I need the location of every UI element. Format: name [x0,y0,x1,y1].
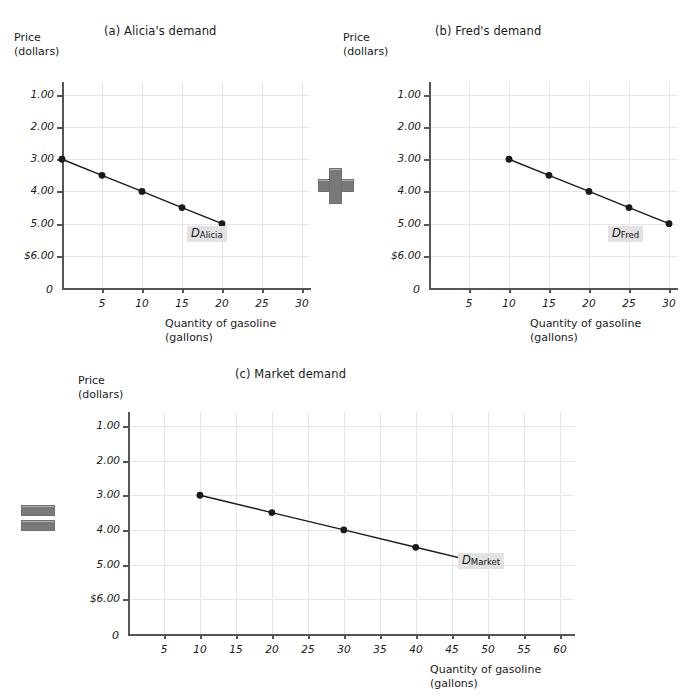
data-point-marker [666,220,673,227]
panel-b-title: (b) Fred's demand [435,24,541,38]
panel-c-x-axis-label-line1: Quantity of gasoline [430,663,541,676]
x-axis-tick-label: 45 [437,643,467,655]
panel-a-x-axis-label-line2: (gallons) [165,331,213,344]
demand-curve-label-symbol: D [191,226,200,240]
panel-c-y-axis-label: Price (dollars) [78,374,123,402]
data-point-marker [546,172,553,179]
x-axis-tick-label: 10 [185,643,215,655]
panel-c-x-axis-label-line2: (gallons) [430,677,478,690]
y-axis-tick-label: 4.00 [74,523,120,535]
panel-a-origin-label: 0 [46,283,53,296]
y-axis-tick-label: 1.00 [8,88,54,100]
demand-curve-label-subscript: Market [471,557,500,567]
demand-curve-label: DAlicia [187,226,227,242]
data-point-marker [197,492,204,499]
x-axis-tick-label: 5 [149,643,179,655]
demand-curve [128,412,574,634]
panel-market-demand: (c) Market demand Price (dollars) $6.005… [0,350,668,698]
y-axis-tick-label: $6.00 [74,592,120,604]
data-point-marker [586,188,593,195]
panel-c-y-axis-label-line1: Price [78,374,105,387]
panel-a-plot-area: $6.005.004.003.002.001.0051015202530DAli… [62,82,310,288]
y-axis-tick-label: 3.00 [8,152,54,164]
y-axis-tick-label: 2.00 [74,454,120,466]
y-axis-tick-label: $6.00 [8,249,54,261]
y-axis-tick-label: 3.00 [375,152,421,164]
x-axis-tick-label: 55 [509,643,539,655]
panel-a-x-axis-label-line1: Quantity of gasoline [165,317,276,330]
panel-b-y-axis-label: Price (dollars) [343,31,388,59]
x-axis-line [62,288,311,290]
data-point-marker [99,172,106,179]
data-point-marker [412,544,419,551]
panel-c-y-axis-label-line2: (dollars) [78,388,123,401]
x-axis-tick-label: 30 [287,297,317,309]
panel-alicia-demand: (a) Alicia's demand Price (dollars) $6.0… [0,0,334,349]
panel-c-origin-label: 0 [112,629,119,642]
panel-a-y-axis-label: Price (dollars) [14,31,59,59]
data-point-marker [340,527,347,534]
x-axis-tick-label: 40 [401,643,431,655]
panel-a-title: (a) Alicia's demand [104,24,216,38]
x-axis-tick-label: 15 [167,297,197,309]
y-axis-tick-label: $6.00 [375,249,421,261]
x-axis-tick-label: 25 [293,643,323,655]
y-axis-tick-label: 5.00 [74,558,120,570]
x-axis-tick-label: 15 [534,297,564,309]
panel-b-x-axis-label-line1: Quantity of gasoline [530,317,641,330]
x-axis-tick-label: 25 [247,297,277,309]
x-axis-tick-label: 30 [654,297,682,309]
x-axis-tick-label: 35 [365,643,395,655]
demand-curve-label-symbol: D [612,226,621,240]
data-point-marker [59,156,66,163]
demand-curve-label-symbol: D [462,553,471,567]
panel-b-x-axis-label: Quantity of gasoline (gallons) [530,317,682,345]
data-point-marker [506,156,513,163]
panel-fred-demand: (b) Fred's demand Price (dollars) $6.005… [334,0,668,349]
y-axis-tick-label: 1.00 [74,419,120,431]
panel-b-plot-area: $6.005.004.003.002.001.0051015202530DFre… [429,82,677,288]
x-axis-tick-label: 25 [614,297,644,309]
data-point-marker [626,204,633,211]
x-axis-tick-label: 10 [494,297,524,309]
demand-curve [62,82,310,288]
panel-c-plot-area: $6.005.004.003.002.001.00510152025303540… [128,412,574,634]
x-axis-line [429,288,678,290]
y-axis-tick-label: 5.00 [375,217,421,229]
panel-a-y-axis-label-line1: Price [14,31,41,44]
x-axis-tick-label: 50 [473,643,503,655]
panel-b-y-axis-label-line2: (dollars) [343,45,388,58]
panel-c-x-axis-label: Quantity of gasoline (gallons) [430,663,610,691]
data-point-marker [139,188,146,195]
x-axis-tick-label: 5 [454,297,484,309]
panel-c-title: (c) Market demand [235,367,346,381]
x-axis-tick-label: 5 [87,297,117,309]
x-axis-tick-label: 60 [545,643,575,655]
y-axis-tick-label: 2.00 [8,120,54,132]
y-axis-tick-label: 1.00 [375,88,421,100]
x-axis-tick-label: 20 [207,297,237,309]
x-axis-line [128,634,575,636]
demand-curve-label-subscript: Alicia [200,230,223,240]
panel-b-x-axis-label-line2: (gallons) [530,331,578,344]
y-axis-tick-label: 5.00 [8,217,54,229]
x-axis-tick-label: 20 [574,297,604,309]
demand-curve [429,82,677,288]
y-axis-tick-label: 4.00 [375,184,421,196]
panel-b-origin-label: 0 [413,283,420,296]
y-axis-tick-label: 4.00 [8,184,54,196]
demand-curve-label: DFred [608,226,643,242]
x-axis-tick-label: 20 [257,643,287,655]
x-axis-tick-label: 10 [127,297,157,309]
panel-b-y-axis-label-line1: Price [343,31,370,44]
panel-a-y-axis-label-line2: (dollars) [14,45,59,58]
x-axis-tick-label: 30 [329,643,359,655]
x-axis-tick-label: 15 [221,643,251,655]
data-point-marker [268,509,275,516]
data-point-marker [179,204,186,211]
y-axis-tick-label: 2.00 [375,120,421,132]
demand-curve-label: DMarket [458,553,504,569]
panel-a-x-axis-label: Quantity of gasoline (gallons) [165,317,325,345]
demand-curve-label-subscript: Fred [621,230,639,240]
y-axis-tick-label: 3.00 [74,488,120,500]
